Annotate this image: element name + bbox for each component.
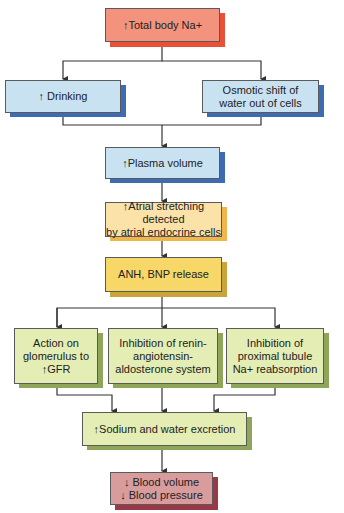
node-anh-bnp-release: ANH, BNP release	[105, 257, 222, 292]
node-proximal-tubule-inhibition: Inhibition of proximal tubule Na+ reabso…	[226, 328, 324, 384]
node-label: ↓ Blood volume ↓ Blood pressure	[120, 476, 203, 502]
node-label: ↑ Drinking	[39, 90, 88, 103]
node-blood-volume-pressure: ↓ Blood volume ↓ Blood pressure	[110, 472, 213, 505]
node-plasma-volume: ↑Plasma volume	[105, 147, 220, 179]
node-label: ↑Sodium and water excretion	[94, 423, 236, 436]
node-label: Osmotic shift of water out of cells	[219, 84, 302, 110]
node-label: Inhibition of proximal tubule Na+ reabso…	[233, 337, 318, 376]
node-osmotic-shift: Osmotic shift of water out of cells	[202, 80, 319, 113]
node-label: ↑Plasma volume	[122, 157, 203, 170]
node-atrial-stretching: ↑Atrial stretching detected by atrial en…	[105, 202, 222, 237]
node-sodium-water-excretion: ↑Sodium and water excretion	[82, 412, 247, 446]
node-glomerulus-gfr: Action on glomerulus to ↑GFR	[14, 328, 98, 384]
node-label: ↑Atrial stretching detected by atrial en…	[106, 200, 221, 239]
node-label: Action on glomerulus to ↑GFR	[23, 337, 89, 376]
node-label: ↑Total body Na+	[123, 19, 202, 32]
node-total-body-na: ↑Total body Na+	[105, 8, 220, 42]
node-label: Inhibition of renin- angiotensin- aldost…	[115, 337, 210, 376]
node-raas-inhibition: Inhibition of renin- angiotensin- aldost…	[108, 328, 218, 384]
node-label: ANH, BNP release	[118, 268, 209, 281]
node-drinking: ↑ Drinking	[5, 80, 121, 113]
